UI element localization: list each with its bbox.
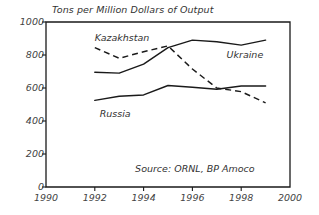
series-label-kazakhstan: Kazakhstan [95,32,150,43]
series-label-ukraine: Ukraine [227,49,264,60]
source-note: Source: ORNL, BP Amoco [135,163,254,174]
plot-area [0,0,319,215]
line-chart: Tons per Million Dollars of Output 0 200… [0,0,319,215]
series-line-russia [95,86,266,101]
series-label-russia: Russia [100,108,131,119]
